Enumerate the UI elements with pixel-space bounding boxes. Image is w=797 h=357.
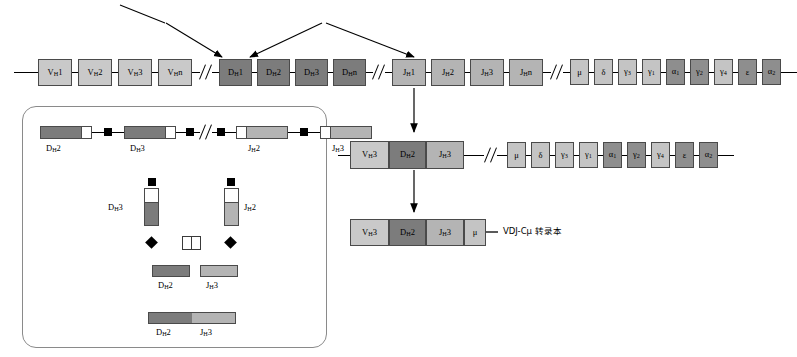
transcript-seg-label: DH2 (400, 227, 415, 236)
link-break-c (563, 72, 570, 73)
inset-loop-rss-right (227, 178, 235, 186)
germline-constant-γ1[interactable]: γ1 (642, 59, 661, 85)
transcript-seg-dh2[interactable]: DH2 (389, 219, 426, 246)
inset-loop-box-jh2-body (225, 203, 238, 225)
inset-rss-square-4 (300, 128, 308, 136)
inset-loop-box-jh2[interactable] (224, 188, 239, 226)
germline-dhn[interactable]: DHn (333, 59, 366, 86)
inset-joined-jh3 (192, 313, 235, 323)
inset-seg-jh3[interactable] (320, 126, 372, 139)
inset-seg-dh3-rss (165, 127, 175, 138)
rearranged-constant-label-ε: ε (683, 150, 687, 159)
rearranged-constant-label-γ2: γ2 (633, 150, 640, 159)
germline-constant-μ[interactable]: μ (570, 59, 589, 85)
rearranged-constant-label-μ: μ (514, 150, 519, 159)
inset-product-label-jh3: JH3 (206, 281, 218, 290)
transcript-seg-vh3[interactable]: VH3 (350, 219, 389, 246)
germline-constant-γ3[interactable]: γ3 (618, 59, 637, 85)
inset-joined-label-dh2: DH2 (156, 328, 171, 337)
inset-link-8 (308, 132, 320, 133)
inset-seg-jh2-rss (237, 127, 247, 138)
label-dhn: DHn (342, 67, 357, 76)
germline-dh3[interactable]: DH3 (295, 59, 328, 86)
germline-constant-α2[interactable]: α2 (762, 59, 781, 85)
link-break-d1 (212, 72, 219, 73)
backbone-germline-start (14, 72, 38, 73)
transcript-seg-jh3[interactable]: JH3 (426, 219, 464, 246)
inset-label-jh3: JH3 (332, 144, 344, 153)
inset-product-label-dh2: DH2 (158, 281, 173, 290)
rearranged-constant-label-γ1: γ1 (585, 150, 592, 159)
inset-loop-box-dh3-rss (145, 189, 158, 203)
inset-seg-jh3-body (331, 127, 371, 138)
rearranged-constant-α1[interactable]: α1 (603, 142, 622, 168)
germline-vh1[interactable]: VH1 (38, 59, 72, 86)
inset-seg-jh2[interactable] (236, 126, 288, 139)
transcript-seg-label: μ (473, 228, 478, 237)
inset-link-3 (176, 132, 186, 133)
inset-loop-box-dh3-body (145, 203, 158, 225)
inset-product-dh2[interactable] (152, 265, 190, 277)
label-jh1: JH1 (403, 67, 415, 76)
inset-link-2 (112, 132, 124, 133)
inset-rss-square-2 (186, 128, 194, 136)
inset-label-jh2: JH2 (248, 144, 260, 153)
germline-constant-label-ε: ε (746, 67, 750, 76)
germline-constant-label-α1: α1 (672, 67, 680, 76)
backbone-rearranged-start (338, 155, 350, 156)
rearranged-constant-γ1[interactable]: γ1 (579, 142, 598, 168)
inset-loop-label-dh3: DH3 (108, 203, 123, 212)
label-jh2: JH2 (442, 67, 454, 76)
rearranged-dh2[interactable]: DH2 (389, 141, 426, 169)
germline-vh3[interactable]: VH3 (118, 59, 152, 86)
link-break-j1 (385, 72, 392, 73)
label-dh3: DH3 (304, 67, 319, 76)
rearranged-jh3[interactable]: JH3 (426, 141, 464, 169)
germline-dh2[interactable]: DH2 (257, 59, 290, 86)
inset-loop-box-dh3[interactable] (144, 188, 159, 226)
rearranged-constant-μ[interactable]: μ (507, 142, 526, 168)
inset-joined-product[interactable] (148, 312, 236, 324)
rearranged-constant-ε[interactable]: ε (675, 142, 694, 168)
inset-joined-dh2 (149, 313, 192, 323)
germline-constant-γ2[interactable]: γ2 (690, 59, 709, 85)
transcript-seg-label: VH3 (362, 227, 377, 236)
germline-dh1[interactable]: DH1 (219, 59, 252, 86)
germline-jhn[interactable]: JHn (509, 59, 543, 86)
label-dh1: DH1 (228, 67, 243, 76)
rearranged-constant-γ2[interactable]: γ2 (627, 142, 646, 168)
germline-vh2[interactable]: VH2 (78, 59, 112, 86)
label-vhn: VHn (168, 67, 183, 76)
link-break-rearr-c (497, 155, 507, 156)
inset-seg-dh3[interactable] (124, 126, 176, 139)
rearranged-constant-α2[interactable]: α2 (699, 142, 718, 168)
germline-constant-α1[interactable]: α1 (666, 59, 685, 85)
rearranged-vh3[interactable]: VH3 (350, 141, 389, 169)
inset-seg-dh2[interactable] (40, 126, 92, 139)
inset-product-jh3[interactable] (200, 265, 238, 277)
inset-seg-jh3-rss (321, 127, 331, 138)
germline-constant-label-γ1: γ1 (648, 67, 655, 76)
rearranged-constant-γ3[interactable]: γ3 (555, 142, 574, 168)
germline-constant-label-α2: α2 (768, 67, 776, 76)
inset-seg-dh2-body (41, 127, 81, 138)
germline-constant-label-γ3: γ3 (624, 67, 631, 76)
transcript-seg-μ[interactable]: μ (464, 219, 486, 246)
germline-constant-γ4[interactable]: γ4 (714, 59, 733, 85)
germline-vhn[interactable]: VHn (158, 59, 192, 86)
germline-jh2[interactable]: JH2 (431, 59, 465, 86)
break-mark-after-d (372, 64, 386, 80)
rearranged-constant-backbone-end (718, 155, 734, 156)
rearranged-constant-γ4[interactable]: γ4 (651, 142, 670, 168)
germline-constant-δ[interactable]: δ (594, 59, 613, 85)
inset-link-1 (92, 132, 104, 133)
germline-jh1[interactable]: JH1 (392, 59, 426, 86)
label-rearr-dh2: DH2 (400, 150, 415, 159)
germline-jh3[interactable]: JH3 (470, 59, 504, 86)
inset-link-6 (225, 132, 236, 133)
inset-loop-box-jh2-rss (225, 189, 238, 203)
rearranged-constant-δ[interactable]: δ (531, 142, 550, 168)
transcript-annotation-label: VDJ-Cμ 转录本 (503, 227, 562, 236)
germline-constant-ε[interactable]: ε (738, 59, 757, 85)
